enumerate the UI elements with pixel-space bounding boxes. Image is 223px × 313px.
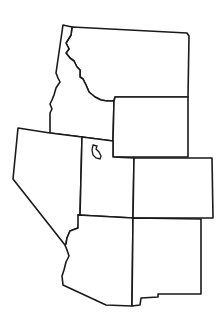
state-nevada: [13, 128, 82, 245]
state-new-mexico: [132, 218, 201, 306]
mountain-west-map: [0, 0, 223, 313]
state-wyoming: [113, 97, 188, 157]
state-colorado: [133, 158, 213, 218]
